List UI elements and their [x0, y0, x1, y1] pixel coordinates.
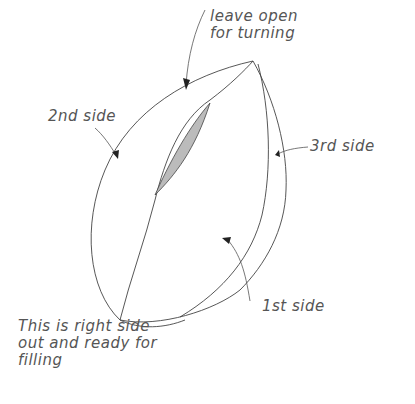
label-first-side: 1st side [262, 298, 325, 315]
arrow-third-side [278, 147, 308, 154]
label-leave-open: leave open for turning [210, 8, 298, 42]
arrow-second-side [95, 128, 116, 155]
outline-bottom [120, 61, 286, 322]
sewing-diagram: leave open for turning 2nd side 3rd side… [0, 0, 415, 404]
seam-first-side [180, 64, 268, 317]
label-second-side: 2nd side [48, 108, 116, 125]
label-caption: This is right side out and ready for fil… [18, 318, 157, 369]
arrowhead-second-side [112, 150, 119, 159]
arrow-first-side [228, 240, 250, 301]
outline-second-side [91, 61, 253, 327]
arrow-leave-open [186, 10, 205, 85]
seam-center [120, 61, 253, 320]
arrowhead-first-side [222, 237, 231, 244]
opening-shape [155, 103, 210, 195]
label-third-side: 3rd side [310, 138, 375, 155]
arrowhead-third-side [275, 150, 280, 157]
